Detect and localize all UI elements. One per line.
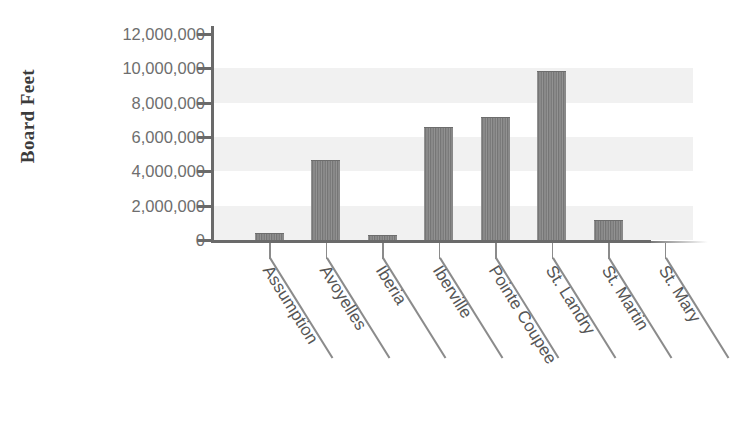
- y-axis-tick-mark: [197, 67, 212, 70]
- y-axis-tick-mark: [197, 33, 212, 36]
- x-axis-label-st-mary: St. Mary: [654, 262, 705, 326]
- x-axis-label-st-martin: St. Martin: [597, 262, 653, 334]
- x-axis-label-assumption: Assumption: [258, 262, 322, 348]
- x-axis-labels-layer: AssumptionAvoyellesIberiaIbervillePointe…: [0, 0, 748, 425]
- x-axis-label-avoyelles: Avoyelles: [315, 262, 370, 334]
- y-axis-tick-mark: [197, 205, 212, 208]
- y-axis-tick-mark: [197, 102, 212, 105]
- y-axis-tick-mark: [197, 170, 212, 173]
- x-axis-label-iberia: Iberia: [371, 262, 410, 309]
- bar-chart-figure: Board Feet 12,000,00010,000,0008,000,000…: [0, 0, 748, 425]
- x-axis-label-iberville: Iberville: [428, 262, 476, 322]
- y-axis-tick-mark: [197, 136, 212, 139]
- y-axis-tick-mark: [197, 239, 212, 242]
- x-axis-label-st-landry: St. Landry: [541, 262, 599, 338]
